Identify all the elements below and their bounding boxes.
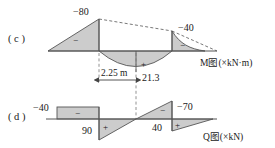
- moment-sign-negative-left: −: [73, 35, 78, 45]
- moment-chord-dashed-left: [99, 19, 172, 31]
- panel-label-d: ( d ): [8, 111, 26, 123]
- shear-right-peak-value-label: −70: [177, 101, 193, 112]
- panel-label-c: ( c ): [8, 33, 25, 45]
- moment-negative-right-region: [172, 31, 205, 51]
- structural-diagram-figure: ( c ) −80 −40 21.3 − + − 2.25 m M图(×kN·m…: [0, 0, 275, 148]
- shear-sign-positive-left: +: [103, 122, 108, 132]
- dimension-label-2-25m: 2.25 m: [101, 68, 128, 78]
- shear-drop-value-label: 90: [82, 125, 92, 136]
- shear-right-rise-value-label: 40: [152, 122, 162, 133]
- moment-left-peak-label: −80: [73, 6, 89, 17]
- moment-positive-midspan-region: [99, 51, 172, 67]
- moment-sign-positive-mid: +: [141, 59, 146, 69]
- shear-sign-positive-right: +: [175, 120, 180, 130]
- shear-negative-right-region: [136, 101, 172, 119]
- moment-axis-title: M图(×kN·m): [200, 58, 252, 69]
- shear-sign-negative-right: −: [160, 105, 165, 115]
- moment-sign-negative-right: −: [180, 40, 185, 50]
- shear-left-value-label: −40: [33, 102, 49, 113]
- moment-midspan-max-label: 21.3: [142, 72, 160, 83]
- shear-sign-negative-left: −: [75, 108, 80, 118]
- moment-right-peak-label: −40: [178, 22, 194, 33]
- shear-axis-title: Q图(×kN): [203, 132, 243, 143]
